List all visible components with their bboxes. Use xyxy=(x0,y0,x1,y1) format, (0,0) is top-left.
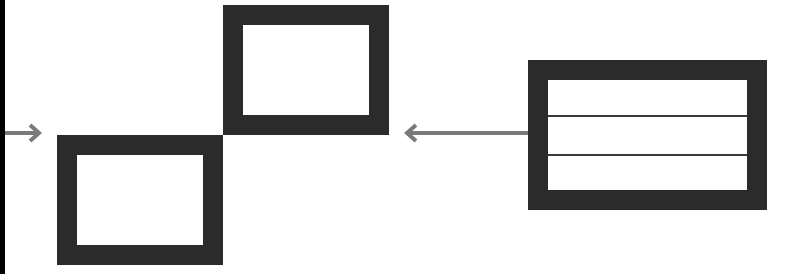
row-divider-1 xyxy=(548,115,747,117)
row-divider-2 xyxy=(548,154,747,156)
arrow-right-icon xyxy=(5,125,39,141)
arrow-left-icon xyxy=(407,125,530,141)
box-a xyxy=(57,135,223,265)
box-b xyxy=(223,5,389,135)
box-c-table xyxy=(528,60,767,210)
